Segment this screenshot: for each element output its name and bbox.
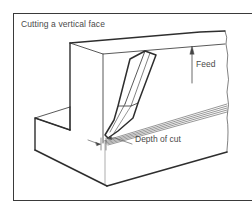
feed-arrow-icon xyxy=(190,46,194,83)
depth-of-cut-label: Depth of cut xyxy=(135,134,181,144)
workpiece-drawing xyxy=(0,0,252,210)
feed-label: Feed xyxy=(196,59,215,69)
figure: Cutting a vertical face xyxy=(0,0,252,210)
cutting-tool xyxy=(105,51,156,138)
